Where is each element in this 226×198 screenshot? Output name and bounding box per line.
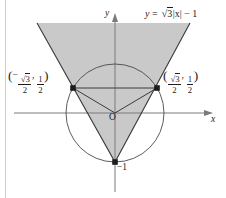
equation-label: y = √3|x| − 1 (145, 9, 197, 19)
right-y-numerator: 1 (187, 75, 193, 85)
y-axis-arrowhead (112, 13, 118, 22)
left-comma: , (32, 70, 37, 80)
left-point-label: (−√32, 12) (8, 71, 49, 94)
left-x-numerator: √3 (18, 75, 31, 85)
left-y-denominator: 2 (37, 85, 43, 94)
point-marker-left (70, 85, 76, 91)
y-axis-label: y (105, 9, 109, 19)
left-y-fraction: 12 (37, 75, 43, 94)
right-x-numerator: √3 (168, 75, 181, 85)
close-paren: ) (194, 68, 199, 83)
right-y-denominator: 2 (187, 85, 193, 94)
graph-canvas (0, 0, 226, 198)
radicand: 3 (167, 7, 173, 19)
close-paren: ) (44, 68, 49, 83)
point-marker-right (154, 85, 160, 91)
equation-radical: √3 (160, 9, 173, 19)
open-paren: ( (163, 68, 168, 83)
right-x-denominator: 2 (171, 85, 177, 94)
x-axis-label: x (211, 115, 215, 125)
right-y-fraction: 12 (187, 75, 193, 94)
left-x-fraction: √32 (18, 75, 31, 94)
vertex-value-label: −1 (117, 163, 127, 173)
equation-equals: = (149, 8, 160, 19)
right-point-label: (√32, 12) (163, 71, 198, 94)
left-x-denominator: 2 (22, 85, 28, 94)
right-x-radicand: 3 (175, 73, 180, 84)
left-x-radicand: 3 (25, 73, 30, 84)
equation-abs-x: |x| (173, 8, 182, 19)
right-x-fraction: √32 (168, 75, 181, 94)
left-x-sign: − (13, 70, 18, 80)
left-y-numerator: 1 (37, 75, 43, 85)
figure-root: y = √3|x| − 1 (−√32, 12) (√32, 12) O −1 … (0, 0, 226, 198)
right-comma: , (182, 70, 187, 80)
origin-label: O (109, 113, 116, 123)
equation-constant: − 1 (184, 8, 197, 19)
